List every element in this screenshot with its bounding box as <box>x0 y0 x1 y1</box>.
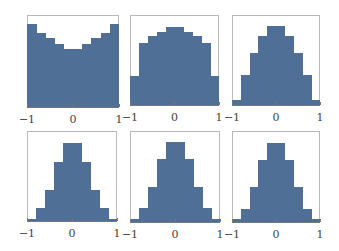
x-tick <box>232 219 233 222</box>
x-tick-label: 0 <box>70 114 77 125</box>
x-tick-label: −1 <box>122 112 138 123</box>
x-tick-label: 1 <box>317 229 324 240</box>
x-tick-label: −1 <box>19 114 35 125</box>
x-tick-label: 0 <box>273 229 280 240</box>
histogram-panel-3: −101 <box>232 15 320 105</box>
x-tick <box>174 102 175 105</box>
x-tick <box>119 104 120 107</box>
x-tick-label: 0 <box>171 112 178 123</box>
x-tick <box>27 218 28 221</box>
bars <box>232 15 320 105</box>
x-tick <box>276 219 277 222</box>
x-tick <box>320 102 321 105</box>
x-tick <box>130 102 131 105</box>
x-axis <box>130 222 220 223</box>
x-tick-label: −1 <box>224 229 240 240</box>
histogram-panel-2: −101 <box>130 15 219 105</box>
x-tick <box>219 102 220 105</box>
x-tick-label: 0 <box>69 228 76 239</box>
x-axis <box>27 107 119 108</box>
bars <box>27 131 117 221</box>
x-tick <box>320 219 321 222</box>
x-axis <box>232 105 320 106</box>
x-tick <box>175 219 176 222</box>
histogram-bar <box>210 76 219 105</box>
x-tick <box>73 104 74 107</box>
histogram-panel-1: −101 <box>27 15 119 107</box>
bars <box>232 131 320 222</box>
bars <box>130 15 219 105</box>
histogram-panel-5: −101 <box>130 131 220 222</box>
x-tick-label: −1 <box>122 229 138 240</box>
x-tick <box>72 218 73 221</box>
x-tick-label: 1 <box>216 112 223 123</box>
x-axis <box>130 105 219 106</box>
x-tick-label: 0 <box>172 229 179 240</box>
x-tick <box>27 104 28 107</box>
x-tick-label: 0 <box>273 112 280 123</box>
x-tick <box>232 102 233 105</box>
x-tick-label: 1 <box>114 228 121 239</box>
x-tick-label: −1 <box>19 228 35 239</box>
x-axis <box>27 221 117 222</box>
x-tick-label: 1 <box>217 229 224 240</box>
x-axis <box>232 222 320 223</box>
histogram-panel-4: −101 <box>27 131 117 221</box>
x-tick-label: 1 <box>317 112 324 123</box>
x-tick <box>117 218 118 221</box>
bars <box>130 131 220 222</box>
x-tick <box>276 102 277 105</box>
x-tick <box>220 219 221 222</box>
histogram-panel-6: −101 <box>232 131 320 222</box>
x-tick <box>130 219 131 222</box>
x-tick-label: −1 <box>224 112 240 123</box>
histogram-bar <box>110 24 120 107</box>
bars <box>27 15 119 107</box>
